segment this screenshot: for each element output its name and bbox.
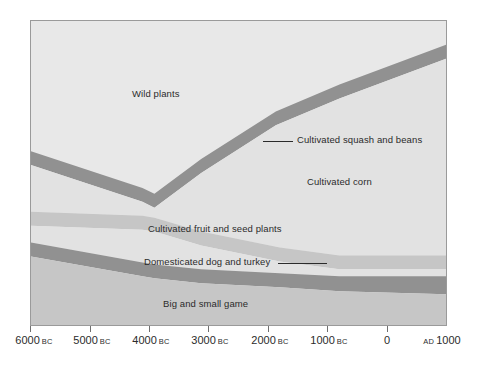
x-axis-label-era: BC — [42, 337, 53, 346]
label-wild-plants: Wild plants — [132, 89, 180, 99]
x-axis-label-number: 3000 — [191, 334, 215, 346]
x-axis-label: 4000BC — [132, 335, 169, 346]
label-cultivated-fruit-and-seed-plants: Cultivated fruit and seed plants — [148, 224, 282, 234]
leader-line-domesticated-dog-and-turkey — [278, 263, 327, 264]
x-axis: 6000BC 5000BC 4000BC 3000BC 2000BC 1000B… — [30, 326, 447, 365]
x-axis-label-number: 1000 — [436, 334, 460, 346]
label-domesticated-dog-and-turkey: Domesticated dog and turkey — [144, 257, 270, 267]
x-axis-tick — [208, 326, 209, 332]
x-axis-label-era: BC — [278, 337, 289, 346]
label-cultivated-corn: Cultivated corn — [307, 177, 372, 187]
x-axis-label-era: BC — [159, 337, 170, 346]
x-axis-tick — [387, 326, 388, 332]
x-axis-label-era: BC — [100, 337, 111, 346]
label-cultivated-squash-and-beans: Cultivated squash and beans — [297, 135, 422, 145]
x-axis-tick — [90, 326, 91, 332]
x-axis-label-number: 5000 — [73, 334, 97, 346]
x-axis-tick — [268, 326, 269, 332]
x-axis-label: 5000BC — [73, 335, 110, 346]
x-axis-label-number: 2000 — [251, 334, 275, 346]
x-axis-label: 0 — [384, 335, 390, 346]
x-axis-label-era: BC — [218, 337, 229, 346]
x-axis-label: AD1000 — [423, 335, 460, 346]
x-axis-tick — [30, 326, 31, 332]
x-axis-label: 6000BC — [15, 335, 52, 346]
x-axis-label-era: AD — [423, 337, 434, 346]
x-axis-label: 2000BC — [251, 335, 288, 346]
stacked-area-bands — [31, 21, 446, 325]
x-axis-label-era: BC — [337, 337, 348, 346]
plot-area: Wild plants Cultivated squash and beans … — [30, 20, 447, 326]
x-axis-label-number: 4000 — [132, 334, 156, 346]
x-axis-tick — [149, 326, 150, 332]
x-axis-label-number: 0 — [384, 334, 390, 346]
x-axis-label: 1000BC — [310, 335, 347, 346]
area-chart-figure: Wild plants Cultivated squash and beans … — [0, 0, 477, 365]
x-axis-tick — [327, 326, 328, 332]
label-big-and-small-game: Big and small game — [163, 299, 248, 309]
x-axis-label: 3000BC — [191, 335, 228, 346]
leader-line-cultivated-squash-and-beans — [263, 141, 293, 142]
x-axis-label-number: 1000 — [310, 334, 334, 346]
x-axis-label-number: 6000 — [15, 334, 39, 346]
